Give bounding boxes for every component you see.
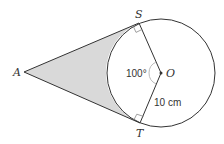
- label-S: S: [135, 8, 143, 21]
- shaded-region: [24, 23, 140, 123]
- tangent-circle-diagram: S T A O 100° 10 cm: [0, 0, 224, 144]
- label-A: A: [12, 66, 21, 79]
- center-point-O: [160, 72, 163, 75]
- angle-arc-O: [149, 62, 156, 84]
- radius-OS: [139, 23, 161, 73]
- label-O: O: [166, 67, 175, 80]
- angle-label: 100°: [126, 68, 147, 79]
- label-T: T: [136, 127, 145, 140]
- radius-label: 10 cm: [154, 97, 181, 108]
